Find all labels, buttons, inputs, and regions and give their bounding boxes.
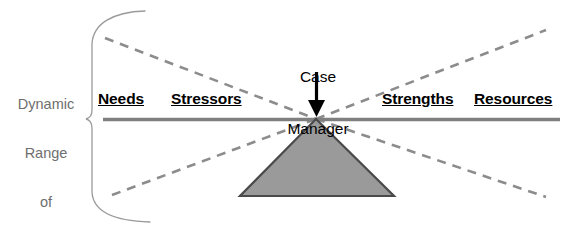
beam-label-strengths: Strengths <box>382 90 453 107</box>
dynamic-range-diagram: Dynamic Range of needs Case Manager Need… <box>0 0 565 228</box>
beam-label-stressors: Stressors <box>171 90 242 107</box>
beam-label-resources: Resources <box>474 90 552 107</box>
dynamic-range-caption: Dynamic Range of needs <box>3 64 89 228</box>
dynamic-range-line-1: Dynamic <box>3 96 89 112</box>
dynamic-range-bracket-icon <box>86 11 150 222</box>
beam-label-needs: Needs <box>98 90 144 107</box>
dynamic-range-line-3: of <box>3 194 89 210</box>
dynamic-range-line-2: Range <box>3 145 89 161</box>
case-manager-caption: Case Manager <box>258 33 378 172</box>
case-manager-line-2: Manager <box>258 120 378 137</box>
case-manager-line-1: Case <box>258 68 378 85</box>
